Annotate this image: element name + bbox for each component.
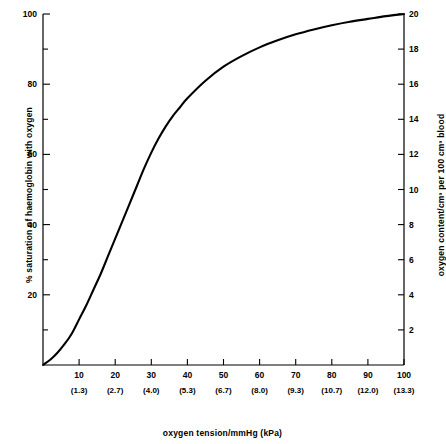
left-axis-ticks [43,14,50,330]
right-tick-label: 18 [409,44,443,54]
bottom-axis-ticks [79,359,404,365]
x-tick-label: 30 [131,370,171,380]
x-axis-title: oxygen tension/mmHg (kPa) [0,428,445,438]
right-tick-label: 6 [409,255,443,265]
x-tick-kpa-label: (13.3) [382,386,426,395]
x-tick-label: 20 [95,370,135,380]
left-axis-title: % saturation of haemoglobin with oxygen [24,70,34,320]
right-tick-label: 2 [409,325,443,335]
right-axis-title: oxygen content/cm³ per 100 cm³ blood [436,70,446,320]
left-tick-label: 80 [3,79,37,89]
dissociation-curve [43,14,404,365]
x-tick-label: 70 [276,370,316,380]
x-tick-label: 100 [384,370,424,380]
x-tick-label: 50 [204,370,244,380]
left-tick-label: 100 [3,9,37,19]
left-tick-label: 20 [3,290,37,300]
x-tick-label: 40 [167,370,207,380]
x-tick-label: 10 [59,370,99,380]
right-tick-label: 8 [409,220,443,230]
x-tick-label: 90 [348,370,388,380]
x-tick-label: 60 [240,370,280,380]
left-tick-label: 40 [3,220,37,230]
right-tick-label: 4 [409,290,443,300]
right-tick-label: 12 [409,149,443,159]
right-tick-label: 20 [409,9,443,19]
right-axis-ticks [398,14,404,330]
right-tick-label: 14 [409,114,443,124]
right-tick-label: 16 [409,79,443,89]
left-tick-label: 60 [3,149,37,159]
right-tick-label: 10 [409,185,443,195]
x-tick-label: 80 [312,370,352,380]
